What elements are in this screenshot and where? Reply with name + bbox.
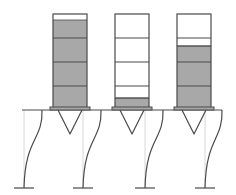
column-curve [24, 110, 42, 188]
container-fill [177, 46, 211, 108]
container-1 [50, 14, 90, 134]
structure-diagram [0, 0, 236, 195]
column-curve [205, 110, 222, 188]
base-plate [112, 107, 152, 110]
base-plate [50, 107, 90, 110]
container-3 [174, 14, 214, 134]
base-plate [174, 107, 214, 110]
hopper-v-shape [58, 110, 82, 134]
container-body [115, 14, 149, 108]
vertical-guide-lines [24, 110, 205, 188]
diagram-canvas [0, 0, 236, 195]
deformed-columns [14, 110, 222, 188]
container-2 [112, 14, 152, 134]
column-curve [83, 110, 101, 188]
storage-containers [50, 14, 214, 134]
hopper-v-shape [182, 110, 206, 134]
container-fill [53, 20, 87, 108]
hopper-v-shape [120, 110, 144, 134]
column-curve [145, 110, 163, 188]
